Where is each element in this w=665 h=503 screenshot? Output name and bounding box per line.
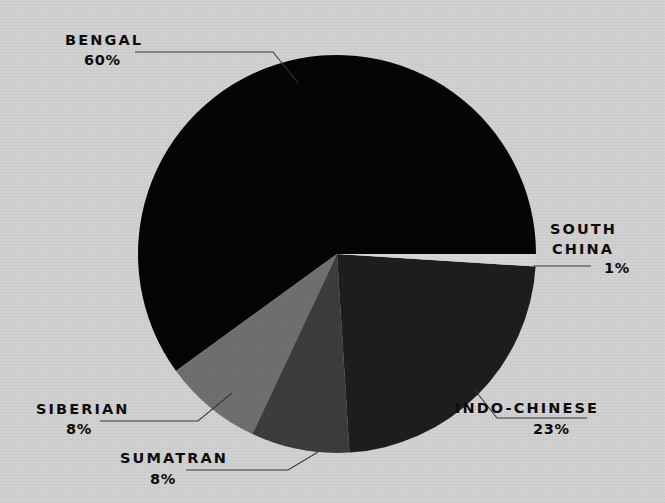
- label-south-china-value: 1%: [604, 260, 630, 276]
- pie-chart-svg: BENGAL 60% SOUTH CHINA 1% INDO-CHINESE 2…: [0, 0, 665, 503]
- label-indo-chinese-value: 23%: [533, 421, 570, 437]
- label-bengal-name: BENGAL: [65, 32, 143, 48]
- label-sumatran-name: SUMATRAN: [120, 450, 228, 466]
- label-sumatran-value: 8%: [150, 471, 176, 487]
- label-siberian-value: 8%: [66, 421, 92, 437]
- pie-chart-container: BENGAL 60% SOUTH CHINA 1% INDO-CHINESE 2…: [0, 0, 665, 503]
- label-siberian-name: SIBERIAN: [36, 401, 130, 417]
- pie-slices-group: [138, 55, 536, 453]
- label-south-china-name-line1: SOUTH: [550, 221, 617, 237]
- label-bengal-value: 60%: [84, 52, 121, 68]
- label-indo-chinese-name: INDO-CHINESE: [455, 400, 599, 416]
- label-south-china-name-line2: CHINA: [552, 241, 614, 257]
